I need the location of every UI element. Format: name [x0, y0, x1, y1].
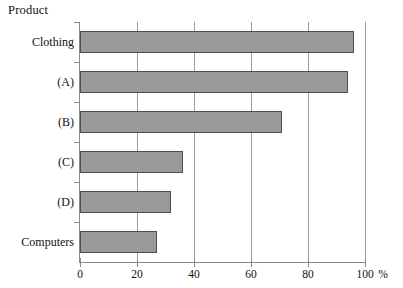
x-axis-tick-label: 40 — [188, 268, 200, 280]
bar — [80, 71, 348, 93]
bar — [80, 231, 157, 253]
x-axis-tick-label: 60 — [245, 268, 257, 280]
y-axis-category-label: Clothing — [32, 35, 74, 50]
bar-chart: Product 020406080100 Clothing(A)(B)(C)(D… — [0, 0, 403, 288]
y-axis-category-label: (D) — [57, 195, 74, 210]
x-axis-tick — [137, 258, 138, 267]
bar — [80, 111, 282, 133]
y-axis-category-label: (B) — [58, 115, 74, 130]
y-axis-tick — [74, 22, 80, 23]
bar — [80, 151, 183, 173]
y-axis-title: Product — [8, 3, 48, 18]
x-axis-tick — [308, 258, 309, 267]
x-axis-tick-label: 100 — [356, 268, 373, 280]
y-axis-tick — [74, 182, 80, 183]
gridline — [251, 22, 252, 262]
y-axis-tick — [74, 102, 80, 103]
x-axis-line — [80, 262, 366, 263]
y-axis-category-label: (C) — [58, 155, 74, 170]
y-axis-tick — [74, 222, 80, 223]
bar — [80, 31, 354, 53]
x-axis-tick — [194, 258, 195, 267]
bar — [80, 191, 171, 213]
y-axis-category-label: Computers — [21, 235, 74, 250]
x-axis-tick — [365, 258, 366, 267]
x-axis-tick-label: 0 — [77, 268, 83, 280]
x-axis-unit-label: % — [378, 268, 388, 280]
gridline — [308, 22, 309, 262]
x-axis-tick — [80, 258, 81, 267]
x-axis-tick-label: 80 — [302, 268, 314, 280]
gridline — [365, 22, 366, 262]
y-axis-tick — [74, 62, 80, 63]
x-axis-tick — [251, 258, 252, 267]
y-axis-tick — [74, 142, 80, 143]
y-axis-category-label: (A) — [57, 75, 74, 90]
gridline — [194, 22, 195, 262]
plot-area — [80, 22, 365, 262]
x-axis-tick-label: 20 — [131, 268, 143, 280]
gridline — [137, 22, 138, 262]
